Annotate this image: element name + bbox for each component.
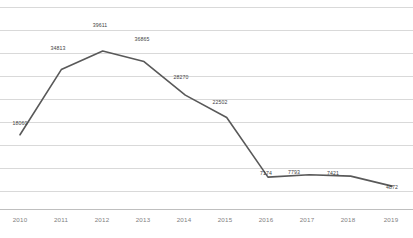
line-chart: 18060 34813 39611 36865 28270 22502 7174… xyxy=(0,0,413,238)
series-polyline xyxy=(20,51,392,186)
data-label: 18060 xyxy=(13,120,28,126)
data-label: 28270 xyxy=(174,74,189,80)
data-label: 7174 xyxy=(260,170,272,176)
data-label: 22502 xyxy=(213,99,228,105)
data-label: 4872 xyxy=(386,184,398,190)
x-tick-label: 2011 xyxy=(54,216,68,223)
x-axis-line xyxy=(0,209,413,210)
data-label: 36865 xyxy=(135,36,150,42)
x-tick-label: 2019 xyxy=(384,216,399,223)
x-tick-label: 2014 xyxy=(177,216,192,223)
series-line xyxy=(0,6,413,209)
x-tick-label: 2015 xyxy=(218,216,233,223)
x-tick-label: 2017 xyxy=(300,216,315,223)
x-tick-label: 2016 xyxy=(259,216,274,223)
x-tick-label: 2012 xyxy=(95,216,110,223)
data-label: 39611 xyxy=(93,22,108,28)
data-label: 7421 xyxy=(327,170,339,176)
x-tick-label: 2010 xyxy=(13,216,28,223)
x-tick-label: 2013 xyxy=(136,216,151,223)
plot-area: 18060 34813 39611 36865 28270 22502 7174… xyxy=(0,6,413,209)
data-label: 7793 xyxy=(288,169,300,175)
data-label: 34813 xyxy=(51,45,66,51)
x-tick-label: 2018 xyxy=(341,216,356,223)
